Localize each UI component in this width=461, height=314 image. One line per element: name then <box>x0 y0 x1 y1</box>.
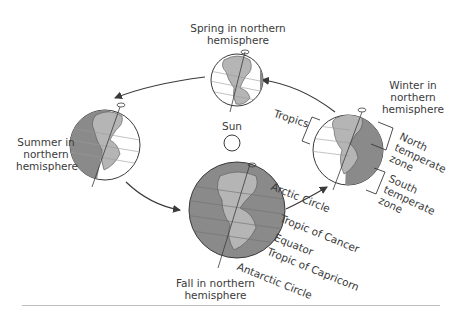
seasons-diagram: Spring in northern hemisphere Summer in … <box>0 0 461 314</box>
globe-spring <box>205 50 266 112</box>
arrow-winter-to-spring <box>262 80 335 112</box>
label-spring: Spring in northern hemisphere <box>188 22 288 46</box>
arrow-spring-to-summer <box>115 77 205 98</box>
label-sun: Sun <box>220 120 244 132</box>
label-summer: Summer in northern hemisphere <box>16 136 76 172</box>
arrow-summer-to-fall <box>126 182 180 210</box>
sun-circle <box>224 135 240 151</box>
label-fall: Fall in northern hemisphere <box>168 277 263 301</box>
label-winter: Winter in northern hemisphere <box>378 79 448 115</box>
globe-winter <box>310 108 390 190</box>
bottom-divider <box>22 305 440 306</box>
